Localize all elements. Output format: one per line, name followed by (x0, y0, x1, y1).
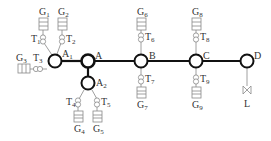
label-t2: T2 (66, 33, 76, 46)
network-diagram: G1 G2 G3 G4 G5 G6 G7 G8 G9 T1 T2 T3 T4 T… (0, 0, 271, 141)
transformer-t9-icon[interactable] (193, 75, 198, 84)
transformers (33, 33, 198, 107)
generator-g3-icon[interactable] (18, 64, 30, 73)
transformer-t5-icon[interactable] (94, 98, 99, 107)
node-b[interactable] (135, 55, 148, 68)
label-g3: G3 (16, 52, 27, 65)
node-a[interactable] (82, 55, 95, 68)
generator-g7-icon[interactable] (137, 87, 146, 98)
label-g4: G4 (74, 123, 85, 136)
label-g1: G1 (39, 6, 50, 19)
generator-g8-icon[interactable] (192, 18, 201, 30)
label-d: D (254, 50, 261, 61)
generator-g2-icon[interactable] (58, 18, 67, 30)
load-l-icon[interactable] (243, 86, 251, 94)
transformer-t7-icon[interactable] (138, 75, 143, 84)
label-t7: T7 (145, 73, 155, 86)
label-a: A (95, 50, 103, 61)
label-g6: G6 (137, 6, 148, 19)
generator-g6-icon[interactable] (137, 18, 146, 30)
label-t8: T8 (200, 31, 210, 44)
transformer-t2-icon[interactable] (59, 35, 64, 44)
transformer-t8-icon[interactable] (193, 33, 198, 42)
label-t4: T4 (66, 96, 76, 109)
label-a1: A1 (62, 48, 73, 61)
generator-g1-icon[interactable] (39, 18, 48, 30)
label-c: C (203, 50, 210, 61)
transformer-t6-icon[interactable] (138, 33, 143, 42)
generator-g5-icon[interactable] (93, 111, 102, 122)
label-t3: T3 (33, 52, 43, 65)
label-g5: G5 (93, 123, 104, 136)
node-d[interactable] (241, 55, 254, 68)
generator-g4-icon[interactable] (74, 111, 83, 122)
label-g9: G9 (192, 99, 203, 112)
label-t5: T5 (101, 96, 111, 109)
label-b: B (149, 50, 156, 61)
node-a1[interactable] (49, 55, 62, 68)
label-g7: G7 (137, 99, 148, 112)
transformer-t3-icon[interactable] (33, 66, 42, 71)
label-g8: G8 (192, 6, 203, 19)
label-t9: T9 (200, 73, 210, 86)
transformer-t4-icon[interactable] (75, 98, 80, 107)
label-t6: T6 (145, 31, 155, 44)
node-a2[interactable] (82, 77, 95, 90)
label-g2: G2 (58, 6, 69, 19)
label-l: L (244, 98, 250, 109)
node-c[interactable] (190, 55, 203, 68)
generator-g9-icon[interactable] (192, 87, 201, 98)
label-a2: A2 (96, 77, 107, 90)
transformer-t1-icon[interactable] (40, 35, 45, 44)
label-t1: T1 (31, 33, 41, 46)
